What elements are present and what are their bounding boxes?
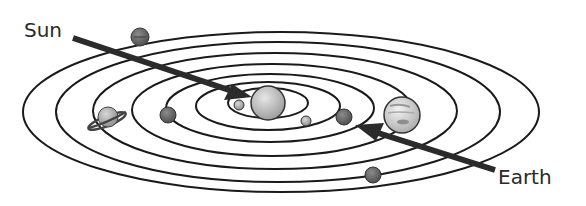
sun-label: Sun [24,18,62,42]
mercury-planet [234,100,244,110]
jupiter-planet [384,97,420,133]
earth-arrow [355,123,495,170]
sun-body [251,86,285,120]
uranus-planet [365,167,381,183]
mars-planet [160,107,176,123]
earth-planet [336,109,352,125]
solar-system-diagram: Sun Earth [0,0,586,206]
venus-planet [301,116,311,126]
earth-label: Earth [498,165,552,189]
sun-arrow [73,38,252,100]
